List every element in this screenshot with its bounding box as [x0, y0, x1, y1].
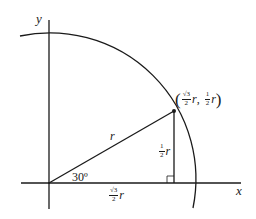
radius-line [49, 111, 174, 183]
point-y-denominator: 2 [206, 100, 210, 108]
diagram-canvas [0, 0, 256, 219]
radius-label: r [110, 130, 115, 142]
horizontal-leg-label: √3 2 r [108, 186, 124, 203]
x-axis-label: x [236, 184, 242, 197]
angle-label: 30º [72, 171, 88, 183]
point-x-denominator: 2 [185, 100, 189, 108]
vertical-leg-fraction: 1 2 [159, 143, 165, 159]
point-separator: , [197, 92, 200, 106]
horizontal-leg-variable: r [119, 188, 124, 202]
close-paren: ) [216, 90, 222, 109]
point-y-fraction: 1 2 [205, 91, 211, 107]
point-x-fraction: √3 2 [182, 91, 191, 107]
origin-point [48, 182, 50, 184]
horizontal-leg-fraction: √3 2 [109, 187, 118, 203]
horizontal-leg-denominator: 2 [112, 196, 116, 204]
vertical-leg-variable: r [166, 144, 171, 158]
circle-arc [20, 33, 196, 208]
point-on-circle [172, 109, 176, 113]
y-axis-label: y [36, 12, 42, 25]
open-paren: ( [175, 90, 181, 109]
point-coordinate-label: ( √3 2 r, 1 2 r) [175, 90, 222, 108]
vertical-leg-label: 1 2 r [158, 142, 170, 159]
right-angle-marker [167, 176, 174, 183]
vertical-leg-denominator: 2 [160, 152, 164, 160]
